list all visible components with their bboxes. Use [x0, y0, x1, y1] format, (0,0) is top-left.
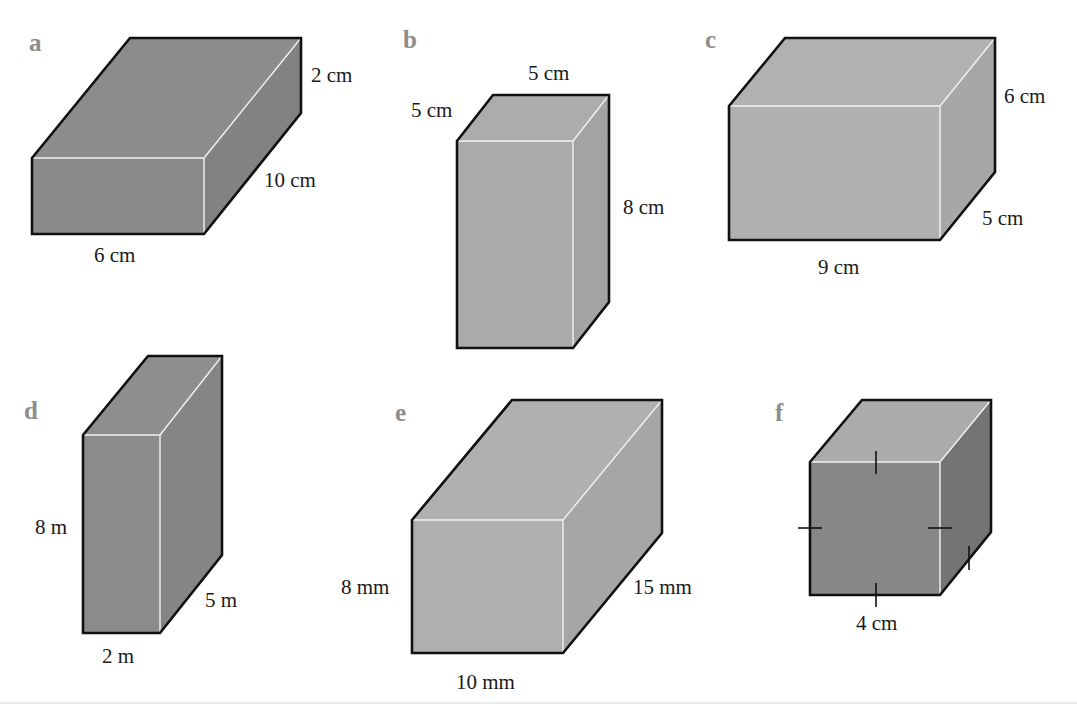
- label-d-height: 8 m: [35, 515, 67, 539]
- label-letter-b: b: [403, 26, 417, 53]
- label-b-top-depth: 5 cm: [411, 98, 452, 122]
- label-f-width: 4 cm: [856, 611, 897, 635]
- label-letter-c: c: [705, 26, 716, 53]
- label-a-height: 2 cm: [311, 63, 352, 87]
- label-a-width: 6 cm: [94, 243, 135, 267]
- label-letter-d: d: [24, 397, 38, 424]
- label-b-top-width: 5 cm: [528, 61, 569, 85]
- label-e-height: 8 mm: [341, 575, 389, 599]
- label-e-depth: 15 mm: [633, 575, 692, 599]
- label-e-width: 10 mm: [456, 670, 515, 694]
- cube-f: f 4 cm: [775, 399, 991, 635]
- label-letter-e: e: [395, 399, 406, 426]
- label-c-height: 6 cm: [1004, 84, 1045, 108]
- cuboid-e: e 8 mm 15 mm 10 mm: [341, 399, 692, 694]
- label-d-depth: 5 m: [205, 588, 237, 612]
- cuboid-d: d 8 m 5 m 2 m: [24, 356, 237, 668]
- label-letter-f: f: [775, 399, 784, 426]
- label-c-width: 9 cm: [818, 255, 859, 279]
- label-c-depth: 5 cm: [982, 206, 1023, 230]
- label-letter-a: a: [29, 29, 42, 56]
- cuboid-b: b 5 cm 5 cm 8 cm: [403, 26, 664, 348]
- cuboid-figure: a 2 cm 10 cm 6 cm b 5 cm 5 cm 8 cm c 6 c…: [0, 0, 1077, 714]
- label-d-width: 2 m: [102, 644, 134, 668]
- label-b-height: 8 cm: [623, 195, 664, 219]
- label-a-depth: 10 cm: [264, 168, 316, 192]
- cuboid-a: a 2 cm 10 cm 6 cm: [29, 29, 352, 267]
- cuboid-c: c 6 cm 5 cm 9 cm: [705, 26, 1045, 279]
